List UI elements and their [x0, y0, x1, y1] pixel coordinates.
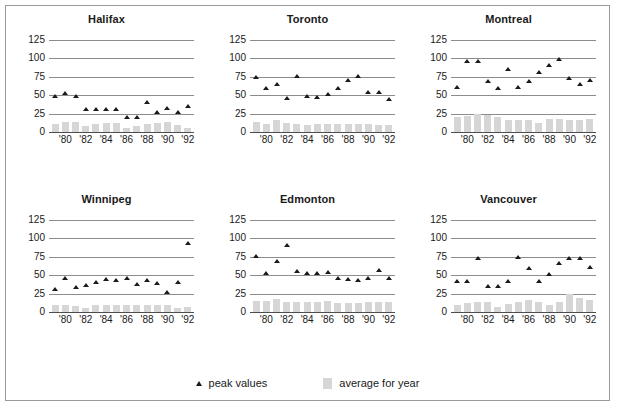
gridline-y-125 — [451, 40, 596, 41]
x-axis-labels: '80'82'84'86'88'90'92 — [451, 314, 596, 330]
bar — [334, 303, 341, 312]
data-point-marker — [52, 94, 58, 98]
bar — [345, 303, 352, 312]
bar — [154, 123, 161, 132]
gridline-y-125 — [451, 220, 596, 221]
data-point-marker — [83, 283, 89, 287]
bar — [515, 302, 522, 312]
data-point-marker — [93, 107, 99, 111]
data-point-marker — [536, 279, 542, 283]
data-point-marker — [52, 287, 58, 291]
bar — [263, 124, 270, 132]
bar — [253, 122, 260, 132]
bar — [546, 305, 553, 312]
panel-montreal: Montreal0255075100125'80'82'84'86'88'90'… — [408, 6, 609, 186]
panel-edmonton: Edmonton0255075100125'80'82'84'86'88'90'… — [207, 186, 408, 366]
data-point-marker — [314, 95, 320, 99]
bar — [283, 123, 290, 132]
data-point-marker — [113, 107, 119, 111]
x-axis-labels: '80'82'84'86'88'90'92 — [451, 134, 596, 150]
data-point-marker — [577, 82, 583, 86]
y-tick-label-100: 100 — [430, 233, 447, 243]
panel-halifax: Halifax0255075100125'80'82'84'86'88'90'9… — [6, 6, 207, 186]
data-point-marker — [505, 279, 511, 283]
y-tick-label-75: 75 — [235, 252, 246, 262]
gridline-y-25 — [49, 114, 194, 115]
y-tick-label-25: 25 — [436, 289, 447, 299]
bar — [273, 120, 280, 133]
gridline-y-100 — [49, 58, 194, 59]
bar — [314, 124, 321, 132]
data-point-marker — [376, 90, 382, 94]
chart-legend: peak values average for year — [6, 366, 609, 400]
plot-area-halifax: 0255075100125 — [49, 40, 194, 132]
plot-area-vancouver: 0255075100125 — [451, 220, 596, 312]
x-tick-label-1990: '90 — [161, 314, 174, 326]
y-tick-label-50: 50 — [235, 270, 246, 280]
bar — [154, 305, 161, 312]
bar — [355, 124, 362, 132]
data-point-marker — [376, 268, 382, 272]
data-point-marker — [304, 271, 310, 275]
y-tick-label-50: 50 — [235, 90, 246, 100]
data-point-marker — [546, 63, 552, 67]
y-tick-label-50: 50 — [436, 90, 447, 100]
panel-title-montreal: Montreal — [408, 13, 609, 25]
bar — [385, 302, 392, 312]
y-tick-label-50: 50 — [34, 270, 45, 280]
data-point-marker — [587, 78, 593, 82]
data-point-marker — [175, 110, 181, 114]
data-point-marker — [83, 107, 89, 111]
gridline-y-75 — [451, 257, 596, 258]
bar — [164, 122, 171, 132]
data-point-marker — [93, 280, 99, 284]
data-point-marker — [355, 74, 361, 78]
data-point-marker — [454, 279, 460, 283]
data-point-marker — [62, 276, 68, 280]
gridline-y-50 — [250, 95, 395, 96]
data-point-marker — [62, 91, 68, 95]
data-point-marker — [164, 106, 170, 110]
bar — [556, 302, 563, 312]
y-tick-label-125: 125 — [430, 35, 447, 45]
axis-baseline — [250, 132, 395, 133]
axis-baseline — [451, 312, 596, 313]
y-tick-label-25: 25 — [235, 289, 246, 299]
y-tick-label-0: 0 — [441, 127, 447, 137]
x-tick-label-1982: '82 — [79, 314, 92, 326]
x-axis-labels: '80'82'84'86'88'90'92 — [250, 314, 395, 330]
x-tick-label-1990: '90 — [362, 134, 375, 146]
data-point-marker — [284, 243, 290, 247]
data-point-marker — [103, 107, 109, 111]
plot-area-montreal: 0255075100125 — [451, 40, 596, 132]
bar — [535, 123, 542, 132]
data-point-marker — [154, 110, 160, 114]
data-point-marker — [365, 90, 371, 94]
y-tick-label-75: 75 — [235, 72, 246, 82]
data-point-marker — [175, 280, 181, 284]
bar — [103, 305, 110, 312]
x-tick-label-1990: '90 — [161, 134, 174, 146]
gridline-y-75 — [451, 77, 596, 78]
x-tick-label-1986: '86 — [120, 134, 133, 146]
bar — [505, 120, 512, 133]
x-tick-label-1984: '84 — [100, 314, 113, 326]
x-axis-labels: '80'82'84'86'88'90'92 — [49, 314, 194, 330]
bar — [283, 302, 290, 312]
data-point-marker — [526, 79, 532, 83]
data-point-marker — [325, 92, 331, 96]
bar — [464, 303, 471, 312]
bar — [505, 304, 512, 312]
gridline-y-125 — [49, 40, 194, 41]
data-point-marker — [515, 255, 521, 259]
bar — [174, 125, 181, 132]
bar — [515, 120, 522, 133]
data-point-marker — [355, 278, 361, 282]
data-point-marker — [154, 281, 160, 285]
gridline-y-100 — [250, 238, 395, 239]
bar — [566, 294, 573, 312]
y-tick-label-0: 0 — [39, 307, 45, 317]
gridline-y-50 — [451, 275, 596, 276]
bar — [293, 124, 300, 132]
bar — [546, 119, 553, 132]
